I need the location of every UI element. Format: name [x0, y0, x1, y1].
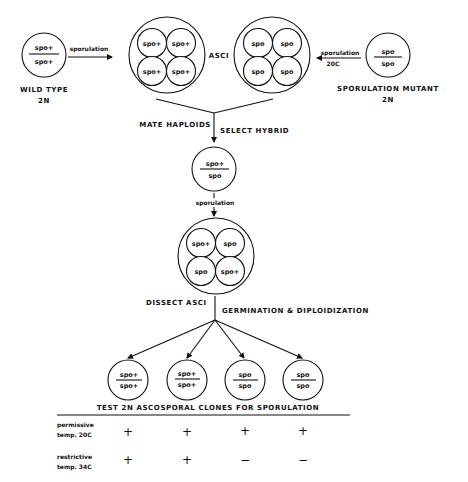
germination-label: GERMINATION & DIPLOIDIZATION [222, 307, 369, 315]
row-label: restrictive [57, 453, 92, 460]
spore: spo [281, 40, 295, 48]
mutant-top-allele: spo [382, 48, 396, 56]
table-header: TEST 2N ASCOSPORAL CLONES FOR SPORULATIO… [97, 404, 320, 412]
clone-bottom-allele: spo+ [120, 382, 138, 390]
clone-top-allele: spo [297, 371, 311, 379]
mutant-ploidy: 2N [382, 96, 394, 104]
clone-top-allele: spo+ [178, 370, 196, 378]
mutant-ascus: spo spo spo spo [234, 17, 310, 93]
mutant-arrow-label: sporulation [321, 49, 360, 57]
clone-2: spo+ spo+ [167, 360, 207, 400]
wild-type-bottom-allele: spo+ [35, 58, 53, 66]
result-cell: − [298, 453, 308, 467]
clone-top-allele: spo [239, 371, 253, 379]
result-cell: + [182, 425, 192, 439]
hybrid-sporulation-arrow: sporulation [196, 193, 235, 216]
hybrid-ascus: spo+ spo spo spo+ [178, 218, 254, 294]
hybrid-top-allele: spo+ [206, 160, 224, 168]
clone-bottom-allele: spo [297, 382, 311, 390]
wild-arrow-label: sporulation [70, 45, 109, 53]
mutant-sporulation-arrow: sporulation 20C [317, 49, 361, 67]
spore: spo+ [143, 40, 161, 48]
result-cell: + [123, 425, 133, 439]
row-label: permissive [57, 421, 94, 429]
spore: spo+ [172, 68, 190, 76]
spore: spo+ [221, 268, 239, 276]
wild-type-ploidy: 2N [38, 97, 50, 105]
clone-bottom-allele: spo [239, 382, 253, 390]
result-cell: + [240, 424, 250, 438]
spore: spo [195, 268, 209, 276]
clone-branches [128, 320, 302, 358]
result-cell: + [123, 453, 133, 467]
spore: spo+ [172, 40, 190, 48]
table-row-restrictive: restrictive temp. 34C + + − − [57, 453, 308, 471]
hybrid-arrow-label: sporulation [196, 199, 235, 207]
dissect-asci-label: DISSECT ASCI [146, 299, 207, 307]
spore: spo [224, 240, 238, 248]
wild-type-ascus: spo+ spo+ spo+ spo+ [129, 17, 205, 93]
asci-label: ASCI [209, 52, 230, 60]
spore: spo [252, 68, 266, 76]
hybrid-diploid: spo+ spo [192, 147, 236, 191]
genetic-cross-diagram: spo+ spo+ WILD TYPE 2N sporulation spo+ … [0, 0, 468, 482]
clone-4: spo spo [283, 360, 323, 400]
wild-type-label: WILD TYPE [20, 86, 68, 94]
select-hybrid-label: SELECT HYBRID [220, 127, 289, 135]
hybrid-bottom-allele: spo [209, 172, 223, 180]
result-cell: + [182, 453, 192, 467]
mutant-label: SPORULATION MUTANT [337, 85, 439, 93]
clone-top-allele: spo+ [120, 371, 138, 379]
table-row-permissive: permissive temp. 20C + + + + [57, 421, 308, 439]
sporulation-mutant-diploid: spo spo SPORULATION MUTANT 2N [337, 33, 439, 104]
result-cell: + [298, 424, 308, 438]
wild-type-top-allele: spo+ [35, 44, 53, 52]
wild-sporulation-arrow: sporulation [68, 45, 112, 57]
row-label: temp. 34C [57, 463, 92, 471]
clone-1: spo+ spo+ [108, 360, 148, 400]
mate-haploids-label: MATE HAPLOIDS [139, 121, 211, 129]
spore: spo [281, 68, 295, 76]
mutant-arrow-temp: 20C [327, 60, 340, 67]
spore: spo [252, 40, 266, 48]
clone-bottom-allele: spo+ [178, 381, 196, 389]
mutant-bottom-allele: spo [382, 60, 396, 68]
clone-3: spo spo [225, 360, 265, 400]
row-label: temp. 20C [57, 431, 92, 439]
result-cell: − [240, 453, 250, 467]
spore: spo+ [192, 240, 210, 248]
wild-type-diploid: spo+ spo+ WILD TYPE 2N [20, 33, 68, 105]
spore: spo+ [143, 68, 161, 76]
